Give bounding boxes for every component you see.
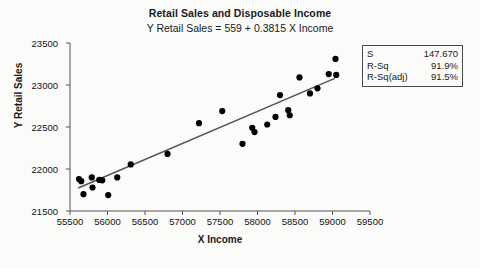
fit-line — [78, 78, 335, 188]
data-point — [78, 178, 84, 184]
x-tick-label: 58000 — [244, 216, 270, 227]
x-tick-label: 56000 — [94, 216, 120, 227]
y-axis-ticks — [66, 43, 70, 211]
statistics-box: S147.670R-Sq91.9%R-Sq(adj)91.5% — [362, 45, 463, 87]
statistic-label: R-Sq(adj) — [367, 71, 408, 83]
data-point — [164, 151, 170, 157]
x-tick-label: 57000 — [169, 216, 195, 227]
y-tick-label: 22500 — [32, 122, 64, 133]
plot-canvas — [70, 43, 370, 211]
data-point — [296, 74, 302, 80]
y-tick-label: 22000 — [32, 164, 64, 175]
x-tick-label: 59500 — [357, 216, 383, 227]
x-tick-label: 59000 — [319, 216, 345, 227]
y-axis-tick-labels: 2150022000225002300023500 — [0, 43, 64, 211]
x-tick-label: 58500 — [282, 216, 308, 227]
data-point — [272, 114, 278, 120]
data-point — [326, 71, 332, 77]
data-points — [76, 56, 339, 198]
statistics-row: R-Sq91.9% — [367, 60, 458, 72]
x-axis-title: X Income — [70, 234, 370, 245]
data-point — [307, 90, 313, 96]
y-tick-label: 21500 — [32, 206, 64, 217]
page-title: Retail Sales and Disposable Income — [0, 7, 480, 20]
x-axis-ticks — [70, 211, 370, 215]
y-tick-label: 23500 — [32, 38, 64, 49]
data-point — [277, 92, 283, 98]
statistics-row: R-Sq(adj)91.5% — [367, 71, 458, 83]
data-point — [128, 161, 134, 167]
data-point — [332, 56, 338, 62]
data-point — [314, 85, 320, 91]
x-axis-tick-labels: 5550056000565005700057500580005850059000… — [70, 216, 370, 230]
statistic-value: 147.670 — [424, 48, 458, 60]
statistic-value: 91.5% — [431, 71, 458, 83]
data-point — [89, 184, 95, 190]
regression-equation: Y Retail Sales = 559 + 0.3815 X Income — [0, 21, 480, 35]
scatter-plot-figure: Retail Sales and Disposable Income Y Ret… — [0, 0, 480, 268]
data-point — [239, 141, 245, 147]
regression-fit-line — [78, 78, 335, 188]
y-tick-label: 23000 — [32, 80, 64, 91]
data-point — [287, 112, 293, 118]
data-point — [251, 129, 257, 135]
data-point — [80, 191, 86, 197]
data-point — [89, 174, 95, 180]
data-point — [219, 108, 225, 114]
x-tick-label: 56500 — [132, 216, 158, 227]
statistic-label: R-Sq — [367, 60, 389, 72]
data-point — [333, 72, 339, 78]
statistic-label: S — [367, 48, 373, 60]
x-tick-label: 57500 — [207, 216, 233, 227]
data-point — [264, 121, 270, 127]
x-tick-label: 55500 — [57, 216, 83, 227]
data-point — [105, 192, 111, 198]
plot-area — [70, 43, 370, 211]
statistic-value: 91.9% — [431, 60, 458, 72]
statistics-row: S147.670 — [367, 48, 458, 60]
data-point — [114, 174, 120, 180]
title-block: Retail Sales and Disposable Income Y Ret… — [0, 7, 480, 35]
data-point — [99, 177, 105, 183]
data-point — [196, 120, 202, 126]
